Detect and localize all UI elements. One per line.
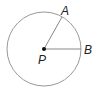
label-b: B bbox=[84, 43, 92, 57]
label-a: A bbox=[60, 4, 69, 18]
label-p: P bbox=[38, 53, 46, 67]
radius-pa bbox=[44, 17, 62, 49]
center-point bbox=[42, 47, 46, 51]
circle-diagram: A B P bbox=[0, 0, 99, 90]
